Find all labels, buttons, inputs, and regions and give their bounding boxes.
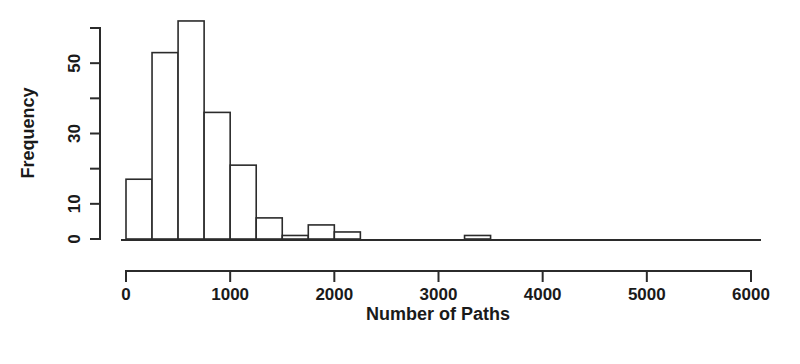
x-tick-label: 4000 <box>524 285 562 304</box>
x-axis-title: Number of Paths <box>366 304 510 324</box>
x-tick-label: 2000 <box>315 285 353 304</box>
x-tick-label: 1000 <box>211 285 249 304</box>
y-axis-title: Frequency <box>18 87 38 178</box>
x-axis-ticks <box>126 271 751 281</box>
histogram-bar <box>308 225 334 239</box>
histogram-bar <box>256 218 282 239</box>
x-tick-label: 5000 <box>628 285 666 304</box>
histogram-bar <box>152 53 178 239</box>
y-tick-label: 30 <box>65 124 84 143</box>
y-tick-label: 50 <box>65 54 84 73</box>
x-axis-tick-labels: 0100020003000400050006000 <box>121 285 770 304</box>
x-tick-label: 6000 <box>732 285 770 304</box>
histogram-figure: 0103050 0100020003000400050006000 Number… <box>0 0 800 364</box>
x-axis: 0100020003000400050006000 <box>121 271 770 304</box>
y-axis-ticks <box>91 28 100 239</box>
bar-series <box>126 21 491 239</box>
x-tick-label: 0 <box>121 285 130 304</box>
y-tick-label: 10 <box>65 194 84 213</box>
y-axis-tick-labels: 0103050 <box>65 54 84 244</box>
histogram-bar <box>126 179 152 239</box>
histogram-bar <box>178 21 204 239</box>
histogram-bar <box>230 165 256 239</box>
y-tick-label: 0 <box>65 234 84 243</box>
histogram-bar <box>334 232 360 239</box>
histogram-bar <box>465 235 491 239</box>
histogram-bar <box>282 235 308 239</box>
plot-canvas: 0103050 0100020003000400050006000 Number… <box>0 0 800 364</box>
x-tick-label: 3000 <box>420 285 458 304</box>
histogram-bar <box>204 112 230 239</box>
y-axis: 0103050 <box>65 28 100 244</box>
